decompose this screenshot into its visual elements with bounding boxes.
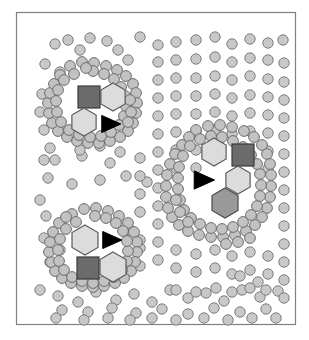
- particle-circle: [96, 131, 107, 142]
- particle-circle: [191, 73, 201, 83]
- particle-circle: [111, 218, 122, 229]
- particle-circle: [252, 201, 263, 212]
- particle-circle: [245, 283, 255, 293]
- particle-circle: [279, 77, 289, 87]
- particle-circle: [132, 237, 143, 248]
- particle-circle: [239, 126, 250, 137]
- particle-circle: [195, 134, 206, 145]
- particle-circle: [279, 221, 289, 231]
- particle-circle: [171, 195, 182, 206]
- particle-circle: [59, 75, 70, 86]
- particle-circle: [129, 227, 140, 238]
- particle-circle: [53, 85, 64, 96]
- particle-circle: [227, 39, 237, 49]
- particle-circle: [126, 107, 137, 118]
- particle-circle: [245, 247, 255, 257]
- particle-circle: [227, 75, 237, 85]
- particle-circle: [191, 267, 201, 277]
- particle-circle: [52, 107, 63, 118]
- particle-circle: [178, 151, 189, 162]
- particle-circle: [56, 117, 67, 128]
- particle-circle: [227, 122, 238, 133]
- particle-circle: [215, 120, 226, 131]
- particle-circle: [135, 171, 145, 181]
- particle-circle: [79, 204, 90, 215]
- particle-circle: [171, 91, 181, 101]
- particle-circle: [35, 195, 45, 205]
- particle-circle: [210, 52, 220, 62]
- particle-circle: [122, 236, 133, 247]
- particle-circle: [263, 55, 273, 65]
- particle-circle: [183, 309, 193, 319]
- particle-circle: [171, 109, 181, 119]
- particle-circle: [245, 108, 255, 118]
- particle-circle: [101, 213, 112, 224]
- particle-circle: [279, 239, 289, 249]
- particle-circle: [235, 271, 245, 281]
- particle-circle: [256, 180, 267, 191]
- particle-circle: [227, 251, 237, 261]
- particle-circle: [271, 313, 281, 323]
- particle-circle: [135, 207, 145, 217]
- particle-circle: [279, 293, 289, 303]
- particle-circle: [245, 233, 256, 244]
- particle-circle: [263, 74, 273, 84]
- particle-circle: [173, 184, 184, 195]
- particle-circle: [174, 162, 185, 173]
- particle-circle: [210, 245, 220, 255]
- particle-circle: [245, 265, 255, 275]
- particle-circle: [67, 272, 78, 283]
- particle-circle: [79, 315, 89, 325]
- particle-cluster-diagram: [0, 0, 309, 340]
- particle-circle: [210, 263, 220, 273]
- particle-circle: [40, 59, 50, 69]
- figure-root: [0, 0, 309, 340]
- particle-circle: [105, 158, 115, 168]
- particle-circle: [221, 239, 232, 250]
- particle-circle: [147, 313, 157, 323]
- particle-circle: [63, 35, 73, 45]
- particle-circle: [185, 141, 196, 152]
- particle-circle: [171, 245, 181, 255]
- particle-circle: [235, 307, 245, 317]
- particle-circle: [227, 111, 237, 121]
- particle-circle: [171, 73, 181, 83]
- particle-circle: [227, 93, 237, 103]
- particle-circle: [55, 234, 66, 245]
- particle-circle: [223, 315, 233, 325]
- particle-circle: [102, 36, 112, 46]
- particle-circle: [217, 224, 228, 235]
- particle-circle: [171, 55, 181, 65]
- particle-circle: [247, 313, 257, 323]
- particle-circle: [263, 110, 273, 120]
- particle-circle: [61, 212, 72, 223]
- particle-circle: [171, 315, 181, 325]
- particle-circle: [41, 211, 51, 221]
- particle-circle: [266, 170, 277, 181]
- particle-circle: [73, 297, 83, 307]
- square-right: [232, 144, 254, 166]
- square-top-left: [78, 86, 100, 108]
- particle-circle: [157, 304, 167, 314]
- particle-circle: [219, 296, 229, 306]
- particle-circle: [162, 170, 173, 181]
- particle-circle: [279, 113, 289, 123]
- particle-circle: [265, 192, 276, 203]
- particle-circle: [279, 185, 289, 195]
- particle-circle: [171, 37, 181, 47]
- particle-circle: [153, 93, 163, 103]
- particle-circle: [279, 58, 289, 68]
- particle-circle: [210, 32, 220, 42]
- particle-circle: [279, 167, 289, 177]
- particle-circle: [135, 189, 145, 199]
- particle-circle: [206, 223, 217, 234]
- particle-circle: [191, 287, 201, 297]
- particle-circle: [191, 54, 201, 64]
- particle-circle: [262, 149, 273, 160]
- particle-circle: [171, 263, 181, 273]
- particle-circle: [279, 203, 289, 213]
- particle-circle: [35, 285, 45, 295]
- particle-circle: [39, 155, 49, 165]
- particle-circle: [153, 129, 163, 139]
- particle-circle: [210, 89, 220, 99]
